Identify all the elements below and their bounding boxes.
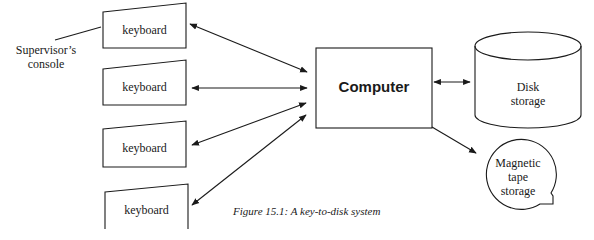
disk-label-line2: storage	[475, 94, 581, 108]
keyboard-3-label: keyboard	[103, 141, 186, 155]
tape-label-line3: storage	[480, 184, 556, 198]
keyboard-2-label: keyboard	[103, 80, 186, 94]
arrow-keyboard-4	[192, 115, 306, 205]
figure-caption: Figure 15.1: A key-to-disk system	[233, 204, 433, 218]
supervisor-label-line2: console	[4, 57, 88, 71]
computer-label: Computer	[316, 78, 432, 96]
disk-label-line1: Disk	[475, 80, 581, 94]
arrow-keyboard-3	[192, 103, 306, 145]
keyboard-1-label: keyboard	[103, 23, 186, 37]
arrow-tape	[432, 127, 476, 153]
disk-top-ellipse	[475, 32, 581, 60]
supervisor-leader-line	[55, 27, 101, 40]
tape-label-line1: Magnetic	[480, 156, 556, 170]
tape-label-line2: tape	[480, 170, 556, 184]
tape-storage-label: Magnetic tape storage	[480, 156, 556, 198]
keyboard-4-label: keyboard	[105, 203, 188, 217]
arrow-keyboard-1	[190, 24, 307, 72]
disk-storage-label: Disk storage	[475, 80, 581, 108]
supervisor-console-label: Supervisor’s console	[4, 43, 88, 71]
supervisor-label-line1: Supervisor’s	[4, 43, 88, 57]
